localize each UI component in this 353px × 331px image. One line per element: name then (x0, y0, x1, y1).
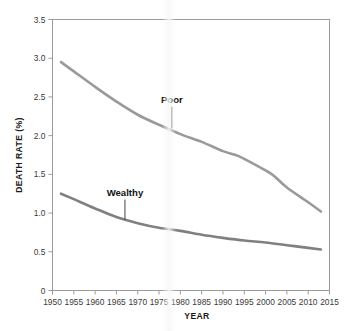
x-tick-label: 2005 (278, 297, 297, 307)
y-tick-label: 1.0 (34, 208, 46, 218)
x-axis-title: YEAR (184, 311, 210, 321)
data-series-group (61, 62, 321, 249)
x-tick-label: 1990 (214, 297, 233, 307)
x-tick-label: 1980 (171, 297, 190, 307)
x-axis-ticks (53, 291, 330, 295)
y-axis-tick-labels: 00.51.01.52.02.53.03.5 (34, 15, 46, 296)
x-tick-label: 1975 (150, 297, 169, 307)
x-tick-label: 2000 (256, 297, 275, 307)
x-tick-label: 1970 (128, 297, 147, 307)
x-tick-label: 2015 (320, 297, 339, 307)
y-tick-label: 0 (41, 286, 46, 296)
plot-frame (53, 20, 330, 291)
x-tick-label: 1985 (192, 297, 211, 307)
series-line-poor (61, 62, 321, 211)
x-tick-label: 1960 (86, 297, 105, 307)
series-label-poor: Poor (161, 94, 183, 105)
x-tick-label: 2010 (299, 297, 318, 307)
series-label-wealthy: Wealthy (107, 187, 144, 198)
y-tick-label: 3.0 (34, 53, 46, 63)
series-annotations-group: PoorWealthy (107, 94, 183, 220)
y-tick-label: 2.5 (34, 92, 46, 102)
x-tick-label: 1995 (235, 297, 254, 307)
y-tick-label: 1.5 (34, 169, 46, 179)
y-tick-label: 2.0 (34, 131, 46, 141)
x-tick-label: 1955 (64, 297, 83, 307)
series-line-wealthy (61, 194, 321, 250)
y-tick-label: 3.5 (34, 15, 46, 25)
line-chart: 00.51.01.52.02.53.03.5 19501955196019651… (0, 0, 353, 331)
y-tick-label: 0.5 (34, 247, 46, 257)
x-tick-label: 1950 (43, 297, 62, 307)
chart-figure: 00.51.01.52.02.53.03.5 19501955196019651… (0, 0, 353, 331)
x-tick-label: 1965 (107, 297, 126, 307)
y-axis-title: DEATH RATE (%) (14, 117, 24, 192)
x-axis-tick-labels: 1950195519601965197019751980198519901995… (43, 297, 339, 307)
y-axis-ticks (49, 20, 53, 291)
